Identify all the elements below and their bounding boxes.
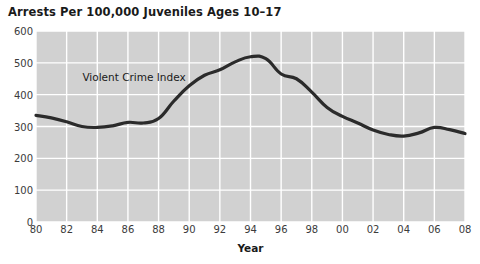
y-axis-tick-label: 100 (3, 185, 33, 196)
x-axis-tick-label: 92 (213, 224, 226, 235)
x-axis-tick-label: 94 (244, 224, 257, 235)
x-axis-tick-label: 82 (60, 224, 73, 235)
x-axis-tick-label: 90 (183, 224, 196, 235)
x-axis-tick-label: 86 (122, 224, 135, 235)
x-axis-tick-label: 08 (459, 224, 472, 235)
x-axis-tick-label: 98 (305, 224, 318, 235)
y-axis-tick-label: 200 (3, 153, 33, 164)
x-axis-tick-label: 88 (152, 224, 165, 235)
x-axis-tick-label: 84 (91, 224, 104, 235)
y-axis-tick-label: 600 (3, 26, 33, 37)
x-axis-tick-label: 80 (30, 224, 43, 235)
chart-figure: Arrests Per 100,000 Juveniles Ages 10–17… (0, 0, 480, 264)
x-axis-tick-label: 04 (397, 224, 410, 235)
x-axis-tick-labels: 808284868890929496980002040608 (36, 224, 465, 240)
x-axis-tick-label: 02 (367, 224, 380, 235)
x-axis-title: Year (36, 242, 465, 254)
chart-title: Arrests Per 100,000 Juveniles Ages 10–17 (8, 5, 282, 19)
x-axis-tick-label: 00 (336, 224, 349, 235)
y-axis-tick-label: 500 (3, 57, 33, 68)
y-axis-tick-label: 300 (3, 121, 33, 132)
x-axis-tick-label: 96 (275, 224, 288, 235)
y-axis-tick-label: 400 (3, 89, 33, 100)
y-axis-tick-labels: 0100200300400500600 (0, 31, 33, 222)
x-axis-tick-label: 06 (428, 224, 441, 235)
annotation-layer: Violent Crime Index (36, 31, 465, 222)
y-axis-tick-label: 0 (3, 217, 33, 228)
plot-area: Violent Crime Index (36, 31, 465, 222)
series-annotation-label: Violent Crime Index (82, 71, 185, 83)
